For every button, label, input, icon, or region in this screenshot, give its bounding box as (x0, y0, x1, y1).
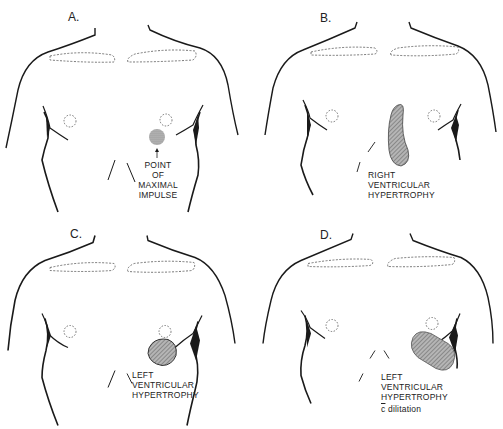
panel-a: A. POINT OF MAXIMAL IMPULSE (0, 0, 250, 215)
panel-label-a: A. (68, 10, 79, 24)
panel-label-c: C. (70, 227, 82, 241)
rvh-marker (388, 104, 408, 166)
caption-d: LEFT VENTRICULAR HYPERTROPHY c dilitatio… (381, 372, 448, 414)
panel-label-b: B. (320, 11, 331, 25)
panel-c: C. LEFT VENTRICULAR HYPERTROPHY (0, 215, 250, 429)
lvh-marker (148, 339, 176, 366)
pmi-marker (149, 129, 165, 145)
caption-d-note: c dilitation (381, 404, 448, 414)
torso-outline-c (0, 215, 250, 429)
caption-b: RIGHT VENTRICULAR HYPERTROPHY (368, 170, 435, 200)
caption-c: LEFT VENTRICULAR HYPERTROPHY (132, 370, 199, 400)
panel-b: B. RIGHT VENTRICULAR HYPERTROPHY (253, 0, 503, 215)
caption-a: POINT OF MAXIMAL IMPULSE (138, 160, 178, 200)
lvh-dilatation-marker (411, 332, 454, 370)
panel-label-d: D. (320, 228, 332, 242)
torso-outline-d (253, 215, 503, 429)
torso-outline-a (0, 0, 250, 215)
panel-d: D. LEFT VENTRICULAR HYPERTROPHY c dilita… (253, 215, 503, 429)
